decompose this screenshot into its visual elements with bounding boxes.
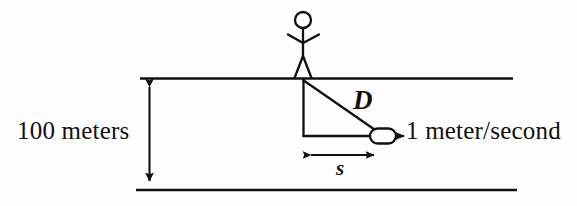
boat-object [370,129,396,144]
diagram-canvas [0,0,577,206]
stick-figure-head [295,12,311,28]
stick-figure-leg-right [303,56,312,78]
stick-figure-person [288,12,319,78]
boat-hull [370,129,396,144]
speed-label: 1 meter/second [406,117,561,145]
physics-diagram-figure: 100 meters 1 meter/second D s [0,0,577,206]
base-label-s: s [336,156,344,181]
hypotenuse-label-d: D [353,85,373,116]
height-label: 100 meters [17,117,129,145]
stick-figure-arm-right [303,35,319,44]
stick-figure-arm-left [288,35,303,44]
stick-figure-leg-left [295,56,304,78]
